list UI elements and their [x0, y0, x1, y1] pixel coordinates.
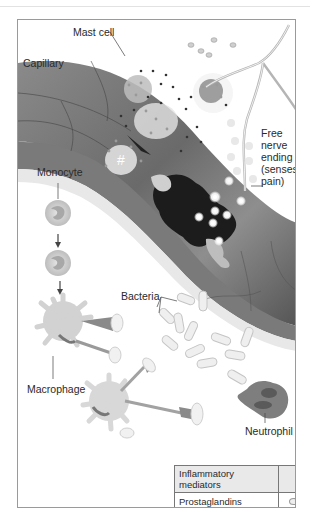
label-capillary: Capillary: [23, 57, 64, 69]
label-macrophage: Macrophage: [27, 383, 85, 395]
prostaglandin-icon: [289, 498, 297, 505]
macrophage-1: [37, 295, 123, 363]
activated-monocyte-cell: [45, 250, 71, 276]
macrophage-2: [83, 356, 203, 438]
top-rule: [0, 6, 310, 7]
label-mast-cell: Mast cell: [73, 26, 114, 38]
mast-cell-in-vessel: #: [105, 145, 137, 175]
prostaglandin-dots: [188, 38, 236, 58]
mast-cell-2: [193, 73, 233, 113]
mast-cell-1: [124, 75, 152, 103]
label-neutrophil: Neutrophil: [245, 425, 293, 437]
legend-row: Prostaglandins: [175, 493, 297, 509]
legend-header-row: Inflammatory mediators: [175, 466, 297, 493]
legend-label-prostaglandins: Prostaglandins: [175, 493, 279, 509]
label-free-nerve-ending: Free nerve ending (senses pain): [261, 127, 296, 187]
monocyte-cell: [45, 200, 71, 226]
legend-title: Inflammatory mediators: [175, 466, 279, 493]
diagram-frame: #: [17, 19, 296, 508]
label-monocyte: Monocyte: [37, 166, 83, 178]
mast-cell-3: [134, 103, 178, 139]
neutrophil-cell: [238, 381, 289, 419]
svg-text:#: #: [117, 152, 125, 168]
label-bacteria: Bacteria: [121, 290, 160, 302]
legend-table: Inflammatory mediators Prostaglandins Hi…: [174, 465, 296, 508]
